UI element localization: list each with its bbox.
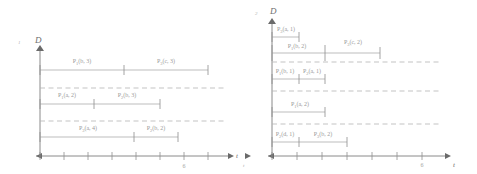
panel-right-x-axis-arrow — [445, 153, 451, 159]
panel-left-x-axis-arrow — [228, 153, 234, 159]
panel-left-corner-label: 1 — [18, 40, 21, 45]
schedule-figure: 1 D t 6 — [0, 0, 477, 174]
panel-left: 1 D t 6 — [0, 0, 239, 174]
panel-right-outside-arrow — [245, 153, 251, 159]
panel-left-lane-0: P1(b, 3) P3(c, 3) — [40, 58, 208, 75]
task-label: P3(b, 2) — [314, 131, 333, 138]
panel-right-x-axis-origin-arrow — [268, 153, 274, 159]
task-label: P1(b, 1) — [276, 68, 295, 75]
panel-right-lane-0: P3(a, 1) P1(b, 2) P3(c, 2) — [272, 26, 380, 61]
panel-right-y-axis-arrow — [268, 18, 276, 24]
task-label: P3(c, 3) — [157, 58, 175, 65]
task-label: P3(a, 1) — [277, 26, 295, 33]
task-label: P1(b, 2) — [288, 43, 307, 50]
panel-right-x-axis-label: t — [453, 161, 456, 169]
task-label: P3(c, 2) — [344, 39, 362, 46]
task-label: P1(b, 3) — [73, 58, 92, 65]
panel-left-tick-label-6: 6 — [183, 163, 186, 169]
panel-right-lane-1: P1(b, 1) P2(a, 1) — [272, 68, 325, 84]
panel-left-y-axis-label: D — [34, 35, 42, 45]
task-label: P1(a, 2) — [58, 92, 76, 99]
panel-left-lane-1: P1(a, 2) P2(b, 3) — [40, 92, 160, 109]
task-label: P2(d, 1) — [276, 131, 295, 138]
panel-right-y-axis-label: D — [269, 6, 277, 16]
panel-right: t 2 D t 6 — [239, 0, 477, 174]
task-label: P2(b, 2) — [147, 125, 166, 132]
panel-left-lane-2: P3(a, 4) P2(b, 2) — [40, 125, 178, 142]
panel-right-lane-2: P1(a, 2) — [272, 101, 325, 117]
panel-right-tick-label-6: 6 — [421, 162, 424, 168]
panel-right-outside-label: t — [243, 163, 245, 168]
panel-right-lane-3: P2(d, 1) P3(b, 2) — [272, 131, 347, 147]
task-label: P2(b, 3) — [118, 92, 137, 99]
task-label: P3(a, 4) — [79, 125, 97, 132]
panel-left-y-axis-arrow — [36, 45, 44, 51]
panel-right-corner-label: 2 — [255, 11, 258, 16]
panel-left-x-axis-origin-arrow — [36, 153, 42, 159]
task-label: P1(a, 2) — [291, 101, 309, 108]
task-label: P2(a, 1) — [303, 68, 321, 75]
